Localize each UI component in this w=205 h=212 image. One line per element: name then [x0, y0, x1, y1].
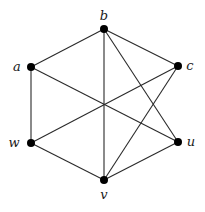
node-label-c: c	[186, 58, 194, 73]
node-a	[27, 63, 35, 71]
edge-b-u	[104, 29, 178, 142]
edges-group	[31, 29, 178, 180]
edge-a-b	[31, 29, 104, 67]
node-w	[27, 139, 35, 147]
edge-v-u	[104, 142, 178, 180]
node-v	[100, 176, 108, 184]
node-b	[100, 25, 108, 33]
graph-diagram: abcuvw	[0, 0, 205, 212]
node-label-v: v	[100, 187, 108, 202]
node-u	[174, 138, 182, 146]
edge-b-c	[104, 29, 178, 66]
node-label-u: u	[187, 134, 195, 149]
node-c	[174, 62, 182, 70]
edge-w-v	[31, 143, 104, 180]
edge-c-v	[104, 66, 178, 180]
node-label-b: b	[100, 8, 108, 23]
labels-group: abcuvw	[8, 8, 195, 202]
node-label-w: w	[8, 135, 19, 150]
node-label-a: a	[13, 59, 21, 74]
